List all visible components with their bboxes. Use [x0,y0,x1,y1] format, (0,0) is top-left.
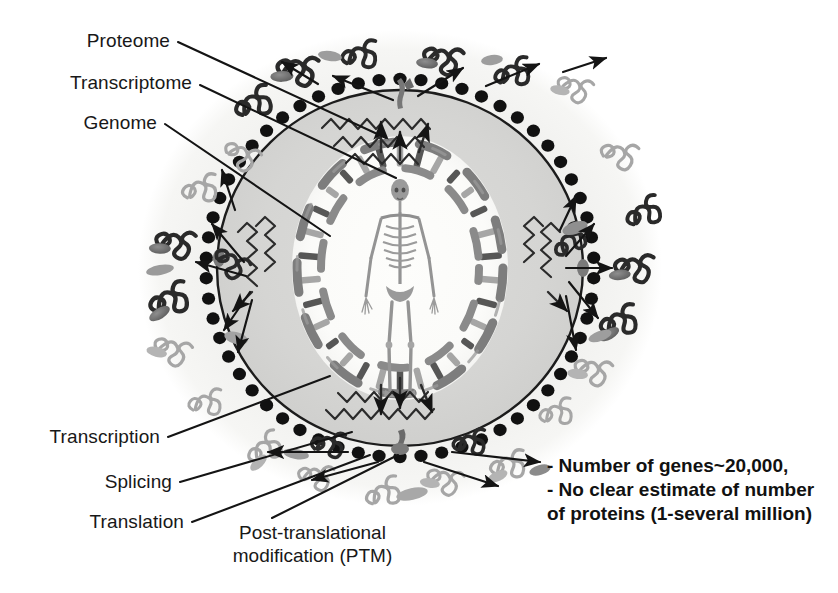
ribosome-dot-icon [527,399,540,411]
ribosome-dot-icon [222,350,235,362]
ribosome-dot-icon [233,368,246,380]
ribosome-dot-icon [435,446,448,458]
ribosome-dot-icon [293,100,306,112]
ribosome-dot-icon [206,312,219,324]
ribosome-dot-icon [554,368,567,380]
ribosome-dot-icon [541,384,554,396]
ribosome-dot-icon [554,156,567,168]
label-proteome: Proteome [0,30,170,52]
ribosome-dot-icon [200,272,213,284]
ribosome-dot-icon [246,384,259,396]
note-line-1: - Number of genes~20,000, [547,454,814,478]
note-line-2: - No clear estimate of number [547,478,814,502]
ribosome-dot-icon [511,111,524,123]
ribosome-dot-icon [455,83,468,95]
ribosome-dot-icon [565,173,578,185]
label-ptm-line2: modification (PTM) [205,544,420,567]
note-line-3: of proteins (1-several million) [547,502,814,526]
ribosome-dot-icon [293,424,306,436]
ribosome-dot-icon [372,450,385,462]
ribosome-dot-icon [511,412,524,424]
label-splicing: Splicing [0,471,172,493]
label-transcription: Transcription [0,426,160,448]
ribosome-dot-icon [331,83,344,95]
ribosome-dot-icon [414,450,427,462]
ribosome-dot-icon [493,100,506,112]
label-genome: Genome [0,112,157,134]
ribosome-dot-icon [213,332,226,344]
label-transcriptome: Transcriptome [0,72,192,94]
ribosome-dot-icon [260,125,273,137]
ribosome-dot-icon [202,231,215,243]
ribosome-dot-icon [414,74,427,86]
ribosome-dot-icon [475,90,488,102]
ribosome-dot-icon [372,74,385,86]
label-translation: Translation [0,511,184,533]
ribosome-dot-icon [580,312,593,324]
ribosome-dot-icon [200,252,213,264]
ribosome-dot-icon [493,424,506,436]
ribosome-dot-icon [276,412,289,424]
ribosome-dot-icon [202,292,215,304]
note-block: - Number of genes~20,000, - No clear est… [547,454,814,526]
ribosome-dot-icon [312,90,325,102]
ribosome-dot-icon [587,252,600,264]
ribosome-dot-icon [541,139,554,151]
ribosome-dot-icon [206,211,219,223]
label-ptm-line1: Post-translational [205,521,420,544]
ribosome-dot-icon [587,272,600,284]
ribosome-dot-icon [527,125,540,137]
figure-canvas: Proteome Transcriptome Genome Transcript… [0,0,838,593]
label-ptm: Post-translational modification (PTM) [205,521,420,567]
